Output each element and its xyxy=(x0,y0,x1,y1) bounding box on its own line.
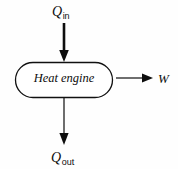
work-label: W xyxy=(158,70,169,86)
heat-in-arrow xyxy=(59,23,69,62)
heat-in-symbol: Q xyxy=(52,4,62,19)
heat-out-subscript: out xyxy=(62,157,75,167)
work-out-arrow xyxy=(116,73,153,82)
heat-out-arrow xyxy=(59,98,68,145)
heat-engine-diagram: Heat engine Qin Qout W xyxy=(0,0,178,169)
heat-out-symbol: Q xyxy=(51,150,61,165)
heat-in-subscript: in xyxy=(63,11,70,21)
work-symbol: W xyxy=(158,71,169,86)
heat-in-label: Qin xyxy=(52,3,70,21)
heat-out-label: Qout xyxy=(51,149,74,167)
heat-engine-box-label: Heat engine xyxy=(16,72,112,85)
